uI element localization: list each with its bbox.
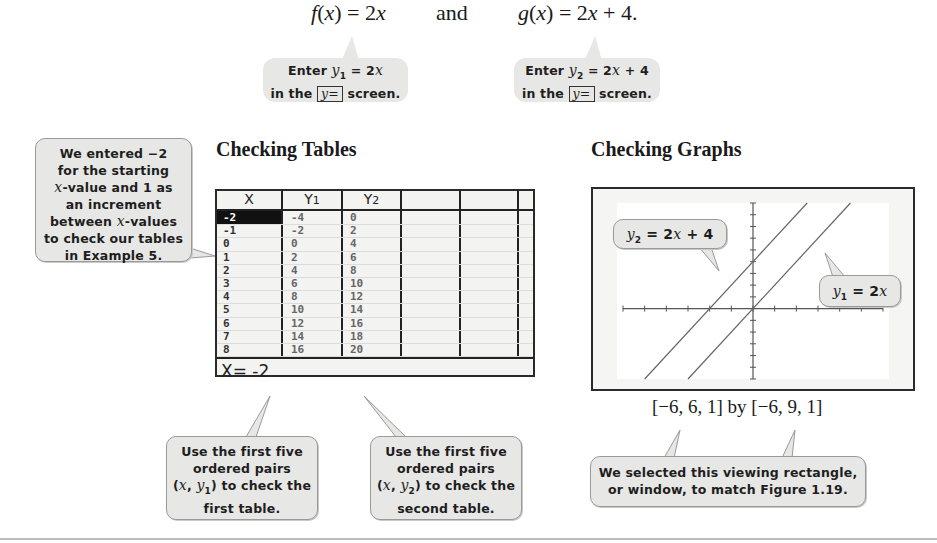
pointer-second-table — [364, 396, 406, 437]
pointer-window-1 — [664, 430, 680, 458]
page-divider — [0, 538, 937, 540]
calculator-graph-screen: y2 = 2x + 4 y1 = 2x — [591, 187, 915, 391]
cell-x: 1 — [217, 251, 283, 264]
cell-y1: -4 — [291, 211, 341, 224]
cell-x: -1 — [217, 224, 283, 237]
y-equals-key: y= — [569, 86, 595, 102]
cell-x: 3 — [217, 277, 283, 290]
cell-y2: 14 — [350, 303, 400, 316]
header-y2: Y2 — [343, 191, 400, 209]
cell-x: 7 — [217, 330, 283, 343]
callout-second-table: Use the first five ordered pairs (x, y2)… — [370, 436, 522, 520]
cell-y2: 6 — [350, 251, 400, 264]
column-4 — [402, 191, 461, 357]
cell-x: 4 — [217, 290, 283, 303]
cell-y1: 16 — [291, 343, 341, 356]
heading-checking-tables: Checking Tables — [216, 138, 357, 161]
label-y2: y2 = 2x + 4 — [613, 219, 727, 249]
cell-x: 2 — [217, 264, 283, 277]
column-5 — [461, 191, 519, 357]
callout-table-setup: We entered −2 for the starting x-value a… — [35, 138, 192, 262]
cell-x: -2 — [217, 211, 281, 224]
calculator-table-screen: X Y1 Y2 -2-40-1-220041262483610481251014… — [215, 189, 535, 377]
cell-y2: 10 — [350, 277, 400, 290]
cell-y2: 20 — [350, 343, 400, 356]
cell-y1: 10 — [291, 303, 341, 316]
cell-y2: 16 — [350, 317, 400, 330]
cell-y1: 6 — [291, 277, 341, 290]
status-readout: X= -2 — [221, 361, 269, 381]
cell-y1: 12 — [291, 317, 341, 330]
window-label: [−6, 6, 1] by [−6, 9, 1] — [652, 396, 822, 418]
callout-enter-y1: Enter y1 = 2x in the y= screen. — [263, 58, 408, 102]
cell-y1: 14 — [291, 330, 341, 343]
callout-window-note: We selected this viewing rectangle, or w… — [590, 456, 866, 507]
pointer-first-table — [246, 396, 270, 437]
cell-y1: 8 — [291, 290, 341, 303]
cell-y1: 4 — [291, 264, 341, 277]
status-divider — [217, 357, 533, 359]
y-equals-key: y= — [317, 86, 343, 102]
header-y1: Y1 — [283, 191, 341, 209]
cell-y2: 18 — [350, 330, 400, 343]
cell-x: 5 — [217, 303, 283, 316]
header-x: X — [217, 191, 281, 209]
heading-checking-graphs: Checking Graphs — [591, 138, 742, 161]
cell-y1: -2 — [291, 224, 341, 237]
cell-y2: 0 — [350, 211, 400, 224]
cell-y2: 8 — [350, 264, 400, 277]
label-y1: y1 = 2x — [819, 275, 901, 307]
cell-x: 0 — [217, 237, 283, 250]
cell-y1: 2 — [291, 251, 341, 264]
cell-y2: 12 — [350, 290, 400, 303]
cell-y2: 2 — [350, 224, 400, 237]
pointer-table-setup — [190, 248, 215, 258]
cell-x: 8 — [217, 343, 283, 356]
cell-y1: 0 — [291, 237, 341, 250]
cell-x: 6 — [217, 317, 283, 330]
callout-enter-y2: Enter y2 = 2x + 4 in the y= screen. — [514, 58, 660, 102]
pointer-window-2 — [782, 430, 795, 458]
cell-y2: 4 — [350, 237, 400, 250]
callout-first-table: Use the first five ordered pairs (x, y1)… — [166, 436, 318, 520]
